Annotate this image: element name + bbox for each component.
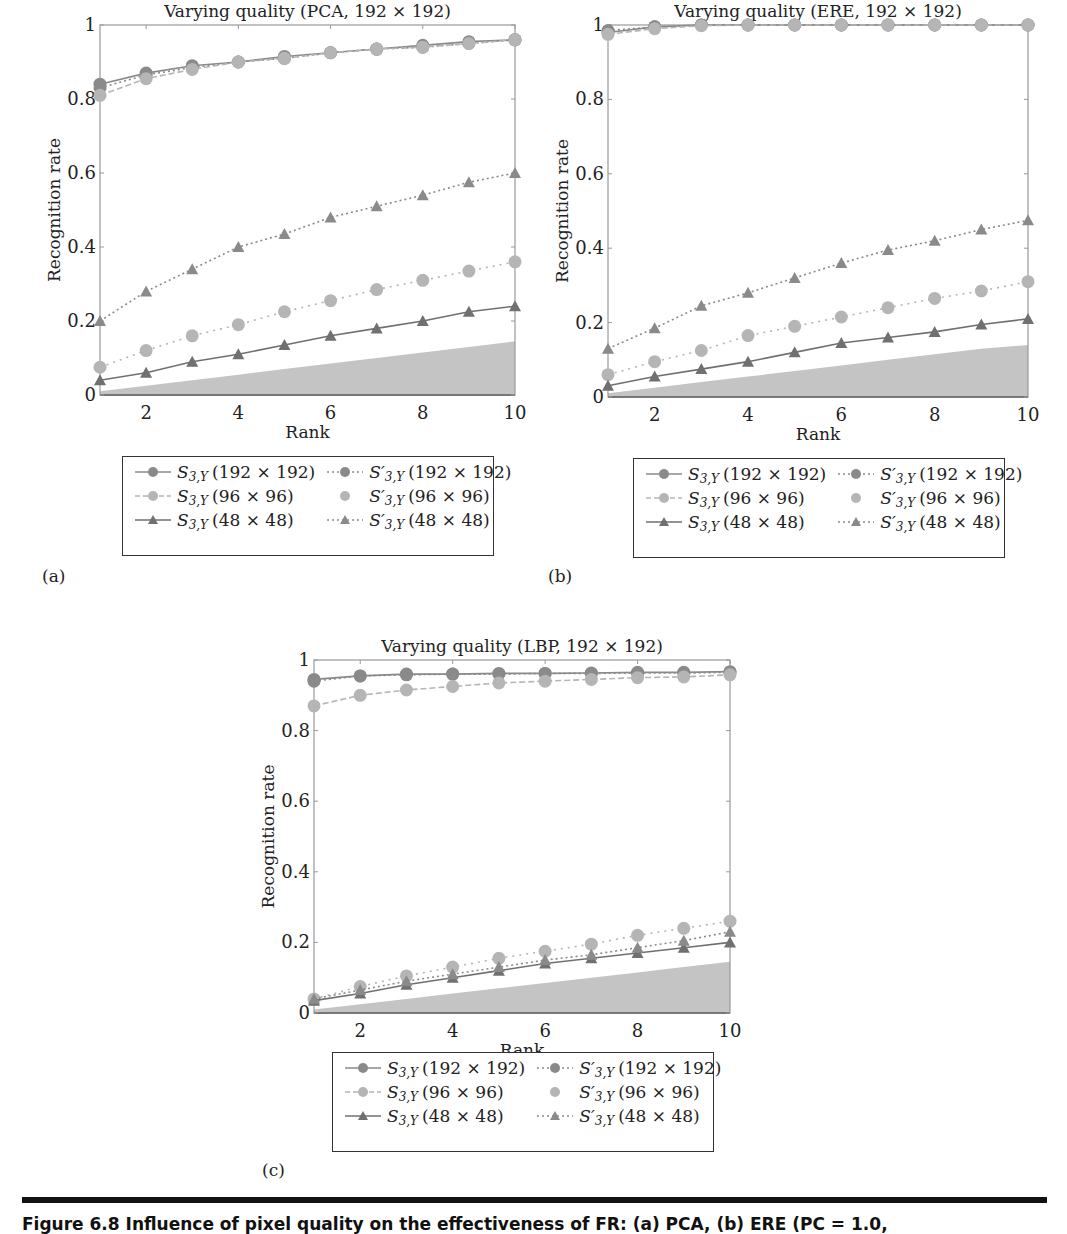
data-point-marker bbox=[400, 668, 413, 681]
circle-marker-icon bbox=[343, 1060, 383, 1076]
x-tick-label: 8 bbox=[632, 1020, 643, 1041]
chart-legend-c: S3,Y(192 × 192)S′3,Y(192 × 192)S3,Y(96 ×… bbox=[332, 1052, 714, 1152]
legend-size-label: (192 × 192) bbox=[618, 1058, 721, 1078]
legend-subscript: 3,Y bbox=[595, 1090, 614, 1104]
triangle-marker-icon bbox=[535, 1108, 575, 1124]
data-point-marker bbox=[492, 676, 505, 689]
legend-symbol: S bbox=[387, 1106, 399, 1126]
data-point-marker bbox=[354, 689, 367, 702]
data-point-marker bbox=[308, 699, 321, 712]
legend-symbol: S bbox=[579, 1106, 591, 1126]
figure-caption: Figure 6.8 Influence of pixel quality on… bbox=[22, 1214, 888, 1234]
legend-size-label: (48 × 48) bbox=[422, 1106, 504, 1126]
legend-item: S′3,Y(48 × 48) bbox=[535, 1106, 721, 1126]
figure-rule bbox=[22, 1197, 1047, 1203]
data-point-marker bbox=[400, 684, 413, 697]
circle-marker-icon bbox=[535, 1084, 575, 1100]
legend-item: S3,Y(96 × 96) bbox=[343, 1082, 525, 1102]
legend-subscript: 3,Y bbox=[595, 1066, 614, 1080]
data-point-marker bbox=[724, 915, 737, 928]
legend-item: S3,Y(48 × 48) bbox=[343, 1106, 525, 1126]
random-baseline-area bbox=[314, 962, 730, 1013]
legend-size-label: (96 × 96) bbox=[618, 1082, 700, 1102]
plot-frame bbox=[314, 660, 730, 1013]
data-point-marker bbox=[677, 670, 690, 683]
data-point-marker bbox=[446, 668, 459, 681]
legend-item: S′3,Y(96 × 96) bbox=[535, 1082, 721, 1102]
data-point-marker bbox=[677, 922, 690, 935]
data-point-marker bbox=[585, 938, 598, 951]
y-tick-label: 0.8 bbox=[281, 720, 310, 741]
chart-panel-c: Varying quality (LBP, 192 × 192)00.20.40… bbox=[0, 0, 1067, 1040]
x-tick-label: 10 bbox=[719, 1020, 742, 1041]
circle-marker-icon bbox=[343, 1084, 383, 1100]
legend-symbol: S bbox=[387, 1082, 399, 1102]
x-tick-label: 4 bbox=[447, 1020, 458, 1041]
legend-item: S3,Y(192 × 192) bbox=[343, 1058, 525, 1078]
data-point-marker bbox=[446, 680, 459, 693]
legend-symbol: S bbox=[387, 1058, 399, 1078]
chart-svg-c: Varying quality (LBP, 192 × 192)00.20.40… bbox=[0, 0, 1067, 1040]
data-point-marker bbox=[308, 675, 321, 688]
legend-grid: S3,Y(192 × 192)S′3,Y(192 × 192)S3,Y(96 ×… bbox=[333, 1053, 713, 1131]
data-point-marker bbox=[678, 935, 690, 946]
y-tick-label: 1 bbox=[299, 649, 310, 670]
y-tick-label: 0.4 bbox=[281, 861, 310, 882]
legend-size-label: (192 × 192) bbox=[422, 1058, 525, 1078]
data-point-marker bbox=[585, 673, 598, 686]
legend-subscript: 3,Y bbox=[399, 1090, 418, 1104]
legend-symbol: S bbox=[579, 1082, 591, 1102]
data-point-marker bbox=[631, 929, 644, 942]
data-point-marker bbox=[631, 671, 644, 684]
legend-size-label: (48 × 48) bbox=[618, 1106, 700, 1126]
triangle-marker-icon bbox=[343, 1108, 383, 1124]
legend-item: S′3,Y(192 × 192) bbox=[535, 1058, 721, 1078]
legend-subscript: 3,Y bbox=[399, 1114, 418, 1128]
panel-label-c: (c) bbox=[262, 1160, 285, 1180]
legend-subscript: 3,Y bbox=[399, 1066, 418, 1080]
data-point-marker bbox=[539, 675, 552, 688]
x-tick-label: 6 bbox=[539, 1020, 550, 1041]
x-tick-label: 2 bbox=[354, 1020, 365, 1041]
legend-symbol: S bbox=[579, 1058, 591, 1078]
circle-marker-icon bbox=[535, 1060, 575, 1076]
legend-subscript: 3,Y bbox=[595, 1114, 614, 1128]
data-point-marker bbox=[724, 926, 736, 937]
y-tick-label: 0.2 bbox=[281, 931, 310, 952]
data-point-marker bbox=[724, 668, 737, 681]
y-tick-label: 0.6 bbox=[281, 790, 310, 811]
data-point-marker bbox=[354, 669, 367, 682]
y-axis-label: Recognition rate bbox=[258, 765, 278, 909]
legend-size-label: (96 × 96) bbox=[422, 1082, 504, 1102]
data-point-marker bbox=[724, 936, 736, 947]
chart-title: Varying quality (LBP, 192 × 192) bbox=[380, 636, 663, 656]
